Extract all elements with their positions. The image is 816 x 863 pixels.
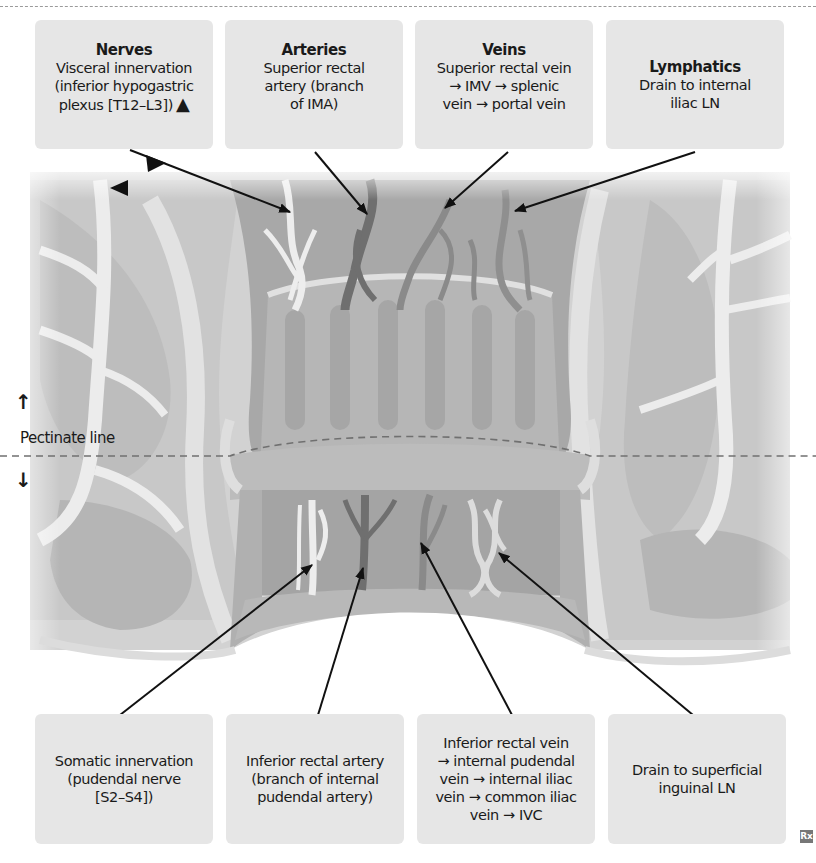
- label-somatic-innervation: Somatic innervation (pudendal nerve [S2–…: [35, 714, 213, 844]
- label-nerves: Nerves Visceral innervation (inferior hy…: [35, 20, 213, 149]
- label-title: Arteries: [229, 41, 399, 59]
- label-title: Veins: [419, 41, 589, 59]
- visceral-marker-icon: ▲: [176, 93, 189, 114]
- label-lymphatics: Lymphatics Drain to internal iliac LN: [606, 20, 784, 149]
- label-arteries: Arteries Superior rectal artery (branch …: [225, 20, 403, 149]
- left-sphincter-lobes: [30, 180, 250, 640]
- arrow-down-icon: ↓: [15, 470, 32, 490]
- arrow-up-icon: ↑: [15, 392, 32, 412]
- label-inferior-rectal-vein: Inferior rectal vein → internal pudendal…: [417, 714, 595, 844]
- label-inferior-rectal-artery: Inferior rectal artery (branch of intern…: [226, 714, 404, 844]
- label-superficial-inguinal-ln: Drain to superficial inguinal LN: [608, 714, 786, 844]
- label-title: Lymphatics: [610, 58, 780, 76]
- label-title: Nerves: [39, 41, 209, 59]
- label-veins: Veins Superior rectal vein → IMV → splen…: [415, 20, 593, 149]
- rx-logo-icon: Rx: [800, 830, 813, 843]
- pectinate-line-label: Pectinate line: [20, 429, 115, 447]
